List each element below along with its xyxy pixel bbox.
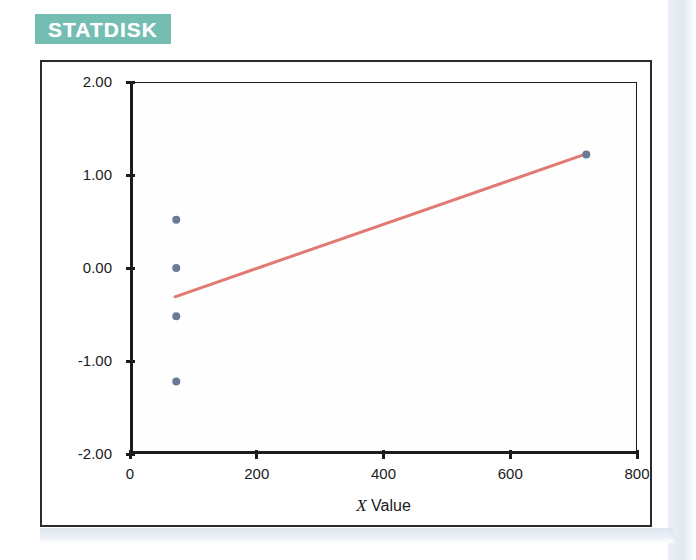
x-axis-tick-label: 200 bbox=[227, 466, 287, 481]
x-axis-tick-label: 800 bbox=[607, 466, 667, 481]
page-edge-shadow-bottom bbox=[40, 528, 674, 543]
x-axis-tick-label: 0 bbox=[100, 466, 160, 481]
y-axis-tick-label: -1.00 bbox=[52, 353, 112, 368]
x-axis-title: X Value bbox=[130, 496, 637, 516]
x-axis-tick-label: 400 bbox=[354, 466, 414, 481]
statdisk-banner-label: STATDISK bbox=[48, 19, 158, 40]
page-edge-shadow-right bbox=[668, 0, 696, 560]
regression-line-group bbox=[175, 154, 587, 297]
data-point-marker bbox=[172, 377, 180, 385]
y-axis-tick-label: 1.00 bbox=[52, 167, 112, 182]
x-axis-tick-label: 600 bbox=[480, 466, 540, 481]
x-axis-title-text: Value bbox=[371, 497, 411, 514]
scatter-plot-svg bbox=[130, 82, 637, 454]
data-point-marker bbox=[172, 312, 180, 320]
data-point-marker bbox=[172, 216, 180, 224]
y-axis-tick-label: 0.00 bbox=[52, 260, 112, 275]
data-points-group bbox=[172, 151, 590, 386]
data-point-marker bbox=[582, 151, 590, 159]
statdisk-banner: STATDISK bbox=[35, 14, 171, 44]
y-axis-tick-label: 2.00 bbox=[52, 74, 112, 89]
data-point-marker bbox=[172, 264, 180, 272]
regression-line bbox=[175, 154, 587, 297]
y-axis-tick-label: -2.00 bbox=[52, 446, 112, 461]
x-axis-title-symbol: X bbox=[356, 496, 366, 515]
